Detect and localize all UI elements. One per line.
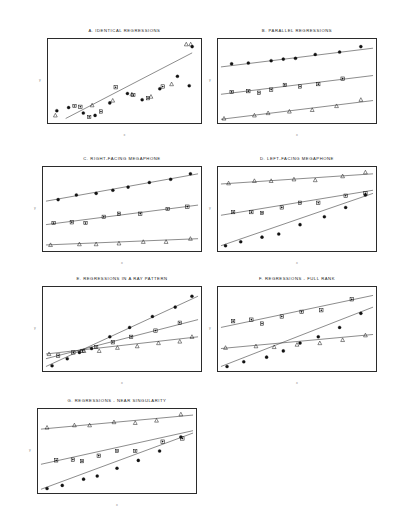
data-point-open-triangle [227,181,231,185]
data-point-star-square [350,298,353,301]
regression-line-star-square [221,190,373,215]
data-point-open-triangle [364,170,368,174]
plot-area-g [37,408,197,494]
y-axis-label-d: y [206,206,214,210]
figure-sheet: A. IDENTICAL REGRESSIONSxyB. PARALLEL RE… [0,0,396,524]
panel-b: B. PARALLEL REGRESSIONSxy [217,28,377,138]
data-point-star-square [129,335,132,338]
regression-line-open-triangle [41,415,193,429]
data-point-open-triangle [184,42,188,46]
data-point-filled-circle [55,109,58,112]
x-axis-label-a: x [47,133,202,137]
data-point-star-square [52,221,55,224]
data-point-star-square [317,201,320,204]
data-point-filled-circle [82,112,85,115]
data-point-star-square [257,91,260,94]
x-axis-label-b: x [217,133,377,137]
data-point-open-triangle [112,420,116,424]
data-point-filled-circle [299,342,302,345]
data-point-open-triangle [170,82,174,86]
panel-title-d: D. LEFT-FACING MEGAPHONE [217,156,377,161]
data-point-star-square [298,201,301,204]
panel-e: E. REGRESSIONS IN A RAY PATTERNxy [42,276,202,386]
data-point-filled-circle [137,459,140,462]
regression-line-filled-circle [221,193,373,245]
data-point-filled-circle [242,360,245,363]
data-point-filled-circle [82,478,85,481]
data-point-filled-circle [51,364,54,367]
data-point-filled-circle [96,474,99,477]
panel-title-f: F. REGRESSIONS - FULL RANK [217,276,377,281]
data-point-open-triangle [222,116,226,120]
data-point-filled-circle [67,106,70,109]
data-point-filled-circle [270,59,273,62]
data-point-star-square [99,110,102,113]
data-point-star-square [298,85,301,88]
data-point-open-triangle [318,341,322,345]
data-point-star-square [80,459,83,462]
data-point-filled-circle [317,335,320,338]
data-point-open-triangle [189,237,193,241]
data-point-filled-circle [282,349,285,352]
data-point-open-triangle [335,104,339,108]
data-point-filled-circle [169,178,172,181]
regression-line-filled-circle [221,48,373,67]
data-point-star-square [280,315,283,318]
y-axis-label-e: y [31,326,39,330]
data-point-star-square [97,454,100,457]
data-point-star-square [79,105,82,108]
data-point-filled-circle [260,236,263,239]
data-point-filled-circle [226,365,229,368]
data-point-star-square [84,221,87,224]
data-point-open-triangle [53,113,57,117]
data-point-filled-circle [338,326,341,329]
data-point-filled-circle [239,240,242,243]
panel-title-a: A. IDENTICAL REGRESSIONS [47,28,202,33]
data-point-star-square [161,85,164,88]
data-point-star-square [115,449,118,452]
data-point-star-square [280,206,283,209]
y-axis-label-g: y [26,448,34,452]
data-point-filled-circle [78,351,81,354]
data-point-star-square [88,115,91,118]
regression-line-star-square [221,76,373,95]
data-point-filled-circle [247,62,250,65]
data-point-filled-circle [176,75,179,78]
data-point-filled-circle [151,315,154,318]
data-point-filled-circle [344,206,347,209]
data-point-filled-circle [189,172,192,175]
plot-area-e [42,286,202,372]
data-point-filled-circle [282,58,285,61]
data-point-star-square [231,320,234,323]
data-point-open-triangle [155,418,159,422]
regression-line-open-triangle [221,174,373,184]
regression-line-star-square [46,205,198,225]
data-point-filled-circle [265,356,268,359]
data-point-star-square [341,77,344,80]
panel-g: G. REGRESSIONS - NEAR SINGULARITYxy [37,398,197,508]
data-point-filled-circle [115,467,118,470]
data-point-open-triangle [133,421,137,425]
data-point-filled-circle [66,357,69,360]
data-point-filled-circle [188,84,191,87]
data-point-star-square [260,211,263,214]
data-point-open-triangle [266,111,270,115]
regression-line-filled-circle [46,174,198,201]
regression-line-star-square [41,431,193,465]
y-axis-label-a: y [36,78,44,82]
panel-d: D. LEFT-FACING MEGAPHONExy [217,156,377,266]
data-point-filled-circle [128,326,131,329]
panel-title-e: E. REGRESSIONS IN A RAY PATTERN [42,276,202,281]
data-point-star-square [320,309,323,312]
data-point-filled-circle [299,223,302,226]
data-point-filled-circle [174,306,177,309]
data-point-star-square [134,449,137,452]
plot-area-f [217,286,377,372]
data-point-open-triangle [178,339,182,343]
y-axis-label-f: y [206,326,214,330]
data-point-filled-circle [179,435,182,438]
data-point-open-triangle [359,98,363,102]
data-point-star-square [56,354,59,357]
y-axis-label-c: y [31,206,39,210]
data-point-filled-circle [90,347,93,350]
